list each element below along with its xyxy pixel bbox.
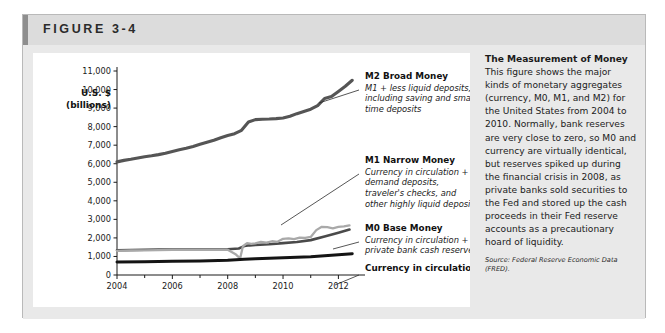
series-line (117, 225, 349, 258)
callout-desc-m2: time deposits (365, 104, 422, 114)
y-tick-label: 4,000 (88, 196, 111, 206)
caption-panel: The Measurement of Money This figure sho… (485, 53, 637, 311)
x-tick-label: 2006 (162, 281, 183, 291)
y-tick-label: 8,000 (88, 122, 111, 132)
callout-desc-m1: traveler's checks, and (365, 188, 457, 198)
x-tick-label: 2004 (107, 281, 128, 291)
caption-title: The Measurement of Money (485, 54, 628, 64)
callout-desc-m0: private bank cash reserves (364, 245, 470, 255)
callout-desc-m2: M1 + less liquid deposits, (365, 83, 470, 93)
caption-source: Source: Federal Reserve Economic Data (F… (485, 256, 637, 273)
series-line (117, 80, 352, 162)
caption-body: This figure shows the major kinds of mon… (485, 67, 636, 247)
figure-number-label: FIGURE 3-4 (43, 22, 138, 36)
header-accent-bar (23, 15, 28, 45)
callout-desc-m0: Currency in circulation + (365, 235, 469, 245)
y-tick-label: 6,000 (88, 159, 111, 169)
chart-panel: U.S. $ (billions) 11,00010,0009,0008,000… (33, 53, 470, 307)
callout-desc-m2: including saving and small (365, 93, 470, 103)
x-tick-label: 2010 (273, 281, 294, 291)
y-tick-label: 0 (106, 270, 111, 280)
callout-desc-m1: other highly liquid deposits (365, 199, 470, 209)
y-tick-label: 2,000 (88, 233, 111, 243)
leader-line-m1 (281, 174, 359, 225)
y-tick-label: 9,000 (88, 103, 111, 113)
callout-title-m1: M1 Narrow Money (365, 155, 455, 165)
leader-line-m0 (333, 242, 359, 249)
callout-title-m0: M0 Base Money (365, 223, 443, 233)
y-tick-label: 1,000 (88, 251, 111, 261)
data-series-group (117, 80, 352, 262)
money-aggregates-line-chart: U.S. $ (billions) 11,00010,0009,0008,000… (33, 53, 470, 307)
callout-desc-m1: Currency in circulation + (365, 167, 469, 177)
x-axis-tick-labels: 20042006200820102012 (107, 281, 349, 291)
caption-text: The Measurement of Money This figure sho… (485, 53, 637, 249)
y-tick-label: 10,000 (82, 85, 111, 95)
figure-body: U.S. $ (billions) 11,00010,0009,0008,000… (23, 45, 645, 319)
callout-title-currency: Currency in circulation (365, 263, 470, 273)
figure-container: FIGURE 3-4 U.S. $ (billions) 11,00010,00… (22, 14, 646, 318)
y-axis-tick-labels: 11,00010,0009,0008,0007,0006,0005,0004,0… (82, 66, 111, 280)
callout-desc-m1: demand deposits, (365, 177, 439, 187)
y-tick-label: 3,000 (88, 214, 111, 224)
y-tick-label: 5,000 (88, 177, 111, 187)
figure-header-band: FIGURE 3-4 (23, 15, 645, 45)
y-tick-label: 7,000 (88, 140, 111, 150)
x-tick-label: 2012 (328, 281, 349, 291)
x-tick-label: 2008 (217, 281, 238, 291)
callout-title-m2: M2 Broad Money (365, 71, 448, 81)
callout-labels-group: M2 Broad MoneyM1 + less liquid deposits,… (364, 71, 470, 273)
y-tick-label: 11,000 (82, 66, 111, 76)
